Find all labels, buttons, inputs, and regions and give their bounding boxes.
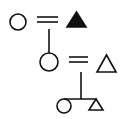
gen1-male-filled-triangle-icon [67, 12, 86, 27]
gen2-marriage-equals-icon [69, 57, 88, 62]
gen3-female-circle-icon [57, 99, 71, 113]
gen2-male-triangle-icon [97, 55, 116, 72]
gen1-marriage-equals-icon [37, 17, 58, 22]
gen2-female-circle-icon [40, 53, 58, 71]
gen1-female-circle-icon [10, 14, 26, 30]
gen3-male-triangle-icon [89, 99, 103, 110]
kinship-diagram [0, 0, 122, 119]
